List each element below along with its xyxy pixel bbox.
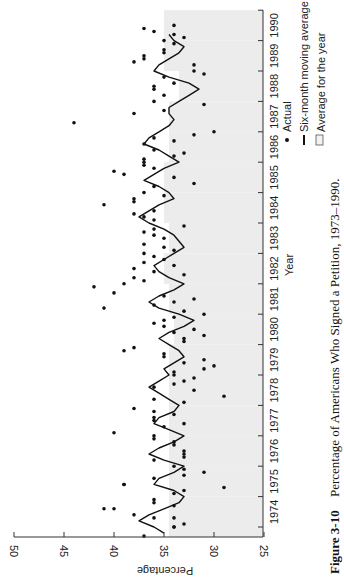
data-point	[182, 474, 186, 478]
data-point	[152, 30, 156, 34]
data-point	[182, 337, 186, 341]
data-point	[132, 212, 136, 216]
yearly-average-bar	[169, 405, 263, 435]
year-tick-label: 1985	[268, 165, 280, 189]
data-point	[162, 94, 166, 98]
data-point	[172, 139, 176, 143]
data-point	[162, 294, 166, 298]
data-point	[182, 467, 186, 471]
legend: Actual Six-month moving average Average …	[281, 1, 327, 145]
data-point	[122, 483, 126, 487]
data-point	[212, 130, 216, 134]
data-point	[142, 157, 146, 161]
data-point	[162, 246, 166, 250]
data-point	[202, 312, 206, 316]
yearly-average-bar	[164, 162, 263, 192]
data-point	[172, 176, 176, 180]
data-point	[172, 249, 176, 253]
year-tick-label: 1989	[268, 44, 280, 68]
data-point	[132, 346, 136, 350]
yearly-average-bar	[164, 41, 263, 71]
year-tick-label: 1983	[268, 226, 280, 250]
data-point	[152, 270, 156, 274]
data-point	[132, 267, 136, 271]
data-point	[102, 203, 106, 207]
data-point	[142, 242, 146, 246]
data-point	[192, 328, 196, 332]
data-point	[152, 84, 156, 88]
data-point	[172, 464, 176, 468]
data-point	[122, 282, 126, 286]
data-point	[172, 264, 176, 268]
data-point	[152, 458, 156, 462]
svg-text:Figure 3-10 Percentage o: Figure 3-10 Percentage of Americans Who …	[327, 179, 342, 574]
data-point	[142, 230, 146, 234]
year-axis-title: Year	[283, 254, 295, 277]
legend-label-yearly-average: Average for the year	[315, 32, 327, 132]
data-point	[162, 236, 166, 240]
year-tick-label: 1975	[268, 469, 280, 493]
chart: 504540353025 Percentage 1974197519761977…	[0, 0, 344, 578]
data-point	[152, 209, 156, 213]
data-point	[142, 252, 146, 256]
data-point	[182, 151, 186, 155]
data-point	[202, 72, 206, 76]
data-point	[162, 39, 166, 43]
legend-label-actual: Actual	[281, 101, 293, 132]
data-point	[152, 416, 156, 420]
data-point	[162, 48, 166, 52]
data-point	[152, 498, 156, 502]
data-point	[152, 227, 156, 231]
data-point	[182, 401, 186, 405]
box-icon	[316, 135, 323, 145]
data-point	[142, 54, 146, 58]
data-point	[152, 100, 156, 104]
data-point	[152, 410, 156, 414]
data-point	[212, 364, 216, 368]
data-point	[222, 486, 226, 490]
year-tick-label: 1988	[268, 74, 280, 98]
data-point	[152, 255, 156, 259]
legend-label-moving-average: Six-month moving average	[298, 1, 310, 132]
data-point	[132, 513, 136, 517]
data-point	[112, 170, 116, 174]
data-point	[102, 507, 106, 511]
data-point	[72, 121, 76, 125]
data-point	[132, 60, 136, 64]
data-point	[172, 42, 176, 46]
data-point	[152, 322, 156, 326]
data-point	[142, 261, 146, 265]
data-point	[172, 382, 176, 386]
data-point	[172, 525, 176, 529]
data-point	[142, 279, 146, 283]
data-point	[112, 507, 116, 511]
data-point	[152, 303, 156, 307]
yearly-average-bar	[164, 193, 263, 223]
yearly-average-bar	[164, 253, 263, 283]
year-axis: 1974197519761977197819791980198119821983…	[258, 10, 295, 537]
data-point	[202, 367, 206, 371]
dot-icon	[285, 138, 289, 142]
yearly-average-bar	[169, 132, 263, 162]
year-tick-label: 1978	[268, 378, 280, 402]
data-point	[192, 182, 196, 186]
data-point	[182, 449, 186, 453]
data-point	[192, 297, 196, 301]
year-tick-label: 1987	[268, 104, 280, 128]
data-point	[182, 422, 186, 426]
legend-item-moving-average: Six-month moving average	[298, 1, 310, 145]
yearly-average-bar	[179, 71, 263, 101]
data-point	[132, 407, 136, 411]
data-point	[202, 103, 206, 107]
data-point	[152, 398, 156, 402]
data-point	[152, 166, 156, 170]
yearly-average-shaded-area	[164, 10, 263, 537]
data-point	[112, 431, 116, 435]
data-point	[192, 388, 196, 392]
legend-item-yearly-average: Average for the year	[315, 32, 327, 145]
data-point	[92, 285, 96, 289]
legend-item-actual: Actual	[281, 101, 293, 142]
percentage-tick-label: 45	[58, 545, 70, 557]
data-point	[172, 331, 176, 335]
data-point	[132, 197, 136, 201]
